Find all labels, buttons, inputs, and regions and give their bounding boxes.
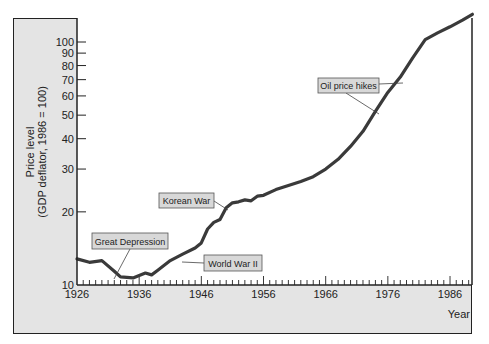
annotation-label: World War II bbox=[208, 259, 258, 269]
annotation-label: Great Depression bbox=[95, 237, 166, 247]
x-axis-label: Year bbox=[448, 308, 471, 320]
x-tick-label: 1956 bbox=[251, 288, 275, 300]
y-tick-label: 70 bbox=[62, 74, 74, 86]
y-tick-label: 60 bbox=[62, 90, 74, 102]
x-tick-label: 1986 bbox=[438, 288, 462, 300]
x-tick-label: 1936 bbox=[127, 288, 151, 300]
x-tick-label: 1946 bbox=[189, 288, 213, 300]
y-tick-label: 30 bbox=[62, 163, 74, 175]
x-tick-label: 1926 bbox=[65, 288, 89, 300]
price-level-chart: 102030405060708090100 192619361946195619… bbox=[0, 0, 489, 344]
x-tick-label: 1966 bbox=[313, 288, 337, 300]
y-tick-label: 50 bbox=[62, 109, 74, 121]
annotation-label: Korean War bbox=[163, 196, 211, 206]
y-tick-label: 80 bbox=[62, 60, 74, 72]
y-tick-label: 90 bbox=[62, 47, 74, 59]
y-tick-label: 20 bbox=[62, 206, 74, 218]
x-tick-label: 1976 bbox=[376, 288, 400, 300]
y-tick-label: 100 bbox=[56, 36, 74, 48]
annotation-label: Oil price hikes bbox=[320, 81, 377, 91]
y-axis-label-line1: Price level bbox=[24, 127, 36, 178]
y-tick-label: 40 bbox=[62, 133, 74, 145]
y-axis-label-line2: (GDP deflator, 1986 = 100) bbox=[36, 86, 48, 218]
